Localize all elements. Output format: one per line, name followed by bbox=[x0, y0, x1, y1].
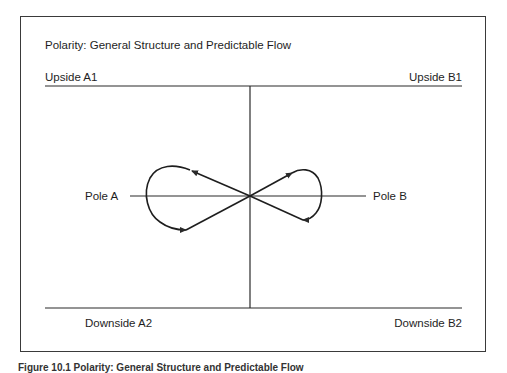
flow-loop-a bbox=[146, 166, 190, 230]
flow-arrow-center-to-b1 bbox=[250, 173, 292, 196]
flow-line-b2-to-center bbox=[250, 196, 303, 220]
figure-caption: Figure 10.1 Polarity: General Structure … bbox=[18, 362, 304, 373]
flow-arrow-center-to-a1 bbox=[192, 171, 250, 196]
flow-loop-b bbox=[292, 170, 322, 220]
flow-line-a2-to-center bbox=[186, 196, 250, 230]
